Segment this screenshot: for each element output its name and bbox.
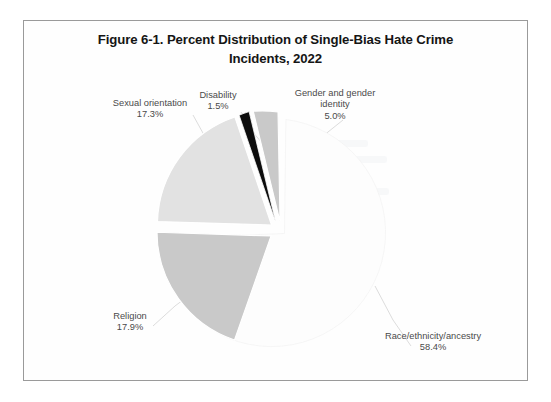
label-gender-identity-value: 5.0% bbox=[281, 111, 389, 122]
label-disability-name: Disability bbox=[178, 90, 258, 101]
label-race-ethnicity-ancestry: Race/ethnicity/ancestry 58.4% bbox=[357, 331, 509, 354]
label-gender-identity-name-2: identity bbox=[281, 99, 389, 110]
label-disability-value: 1.5% bbox=[178, 101, 258, 112]
label-disability: Disability 1.5% bbox=[178, 90, 258, 113]
label-gender-identity-name-1: Gender and gender bbox=[281, 88, 389, 99]
label-race-ethnicity-ancestry-value: 58.4% bbox=[357, 342, 509, 353]
label-religion: Religion 17.9% bbox=[86, 311, 174, 334]
label-religion-value: 17.9% bbox=[86, 322, 174, 333]
label-religion-name: Religion bbox=[86, 311, 174, 322]
label-gender-identity: Gender and gender identity 5.0% bbox=[281, 88, 389, 122]
label-race-ethnicity-ancestry-name: Race/ethnicity/ancestry bbox=[357, 331, 509, 342]
